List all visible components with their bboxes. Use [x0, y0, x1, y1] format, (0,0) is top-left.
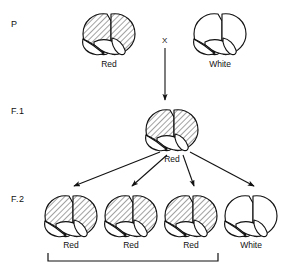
generation-label-p: P: [11, 19, 18, 29]
genetics-cross-diagram: P Red White X: [0, 0, 297, 271]
cross-symbol: X: [162, 36, 168, 45]
red-group-bracket: [48, 253, 218, 261]
flower-label-p-red: Red: [101, 59, 117, 69]
flower-f1-red: [146, 110, 198, 151]
f1-to-f2-arrow-1: [74, 152, 160, 186]
f1-to-f2-arrow-3: [183, 155, 194, 186]
flower-label-f2-2: Red: [123, 240, 139, 250]
flower-p-red: [83, 14, 135, 55]
flower-f2-red-1: [45, 196, 97, 237]
flower-f2-red-3: [165, 196, 217, 237]
diagram-canvas: P Red White X: [0, 0, 297, 271]
flower-label-p-white: White: [209, 59, 231, 69]
flower-label-f2-3: Red: [183, 240, 199, 250]
flower-p-white: [194, 14, 246, 55]
flower-label-f2-1: Red: [63, 240, 79, 250]
f1-to-f2-arrow-2: [132, 155, 167, 186]
generation-label-f2: F.2: [11, 194, 25, 204]
generation-label-f1: F.1: [11, 106, 25, 116]
flower-label-f2-4: White: [240, 240, 262, 250]
flower-f2-red-2: [105, 196, 157, 237]
f1-to-f2-arrow-4: [190, 152, 254, 186]
flower-f2-white: [225, 196, 277, 237]
